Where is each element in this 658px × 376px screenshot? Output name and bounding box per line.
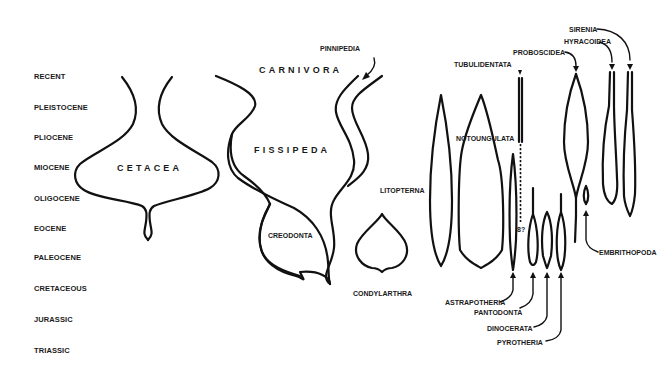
label-cetacea: CETACEA	[117, 163, 182, 173]
period-oligocene: OLIGOCENE	[34, 194, 80, 203]
period-pliocene: PLIOCENE	[34, 133, 73, 142]
period-recent: RECENT	[34, 72, 66, 81]
label-pantodonta: PANTODONTA	[474, 309, 522, 316]
label-sirenia: SIRENIA	[569, 26, 597, 33]
cetacea-spindle: CETACEA	[75, 77, 219, 240]
pantodonta-spindle: PANTODONTA	[474, 188, 538, 316]
period-paleocene: PALEOCENE	[34, 253, 81, 262]
phylogeny-figure: RECENT PLEISTOCENE PLIOCENE MIOCENE OLIG…	[0, 0, 658, 376]
litopterna-spindle	[430, 95, 452, 266]
period-miocene: MIOCENE	[34, 163, 70, 172]
embrithopoda-spindle: EMBRITHOPODA	[583, 186, 657, 256]
proboscidea-spindle: PROBOSCIDEA	[513, 49, 588, 242]
period-pleistocene: PLEISTOCENE	[34, 103, 88, 112]
label-condylarthra: CONDYLARTHRA	[353, 290, 412, 297]
time-scale: RECENT PLEISTOCENE PLIOCENE MIOCENE OLIG…	[34, 72, 88, 355]
notoungulata-spindle: NOTOUNGULATA	[456, 95, 514, 268]
label-litopterna: LITOPTERNA	[380, 187, 425, 194]
label-dinocerata: DINOCERATA	[487, 325, 533, 332]
label-notoungulata: NOTOUNGULATA	[456, 135, 514, 142]
period-triassic: TRIASSIC	[34, 346, 70, 355]
tubulidentata-line: TUBULIDENTATA 8?	[454, 61, 525, 233]
label-embrithopoda: EMBRITHOPODA	[599, 249, 657, 256]
label-carnivora: CARNIVORA	[259, 65, 342, 75]
label-tubulidentata: TUBULIDENTATA	[454, 61, 512, 68]
condylarthra-spindle: CONDYLARTHRA LITOPTERNA	[353, 187, 425, 297]
label-proboscidea: PROBOSCIDEA	[513, 49, 565, 56]
label-creodonta: CREODONTA	[268, 232, 313, 239]
label-astrapotheria: ASTRAPOTHERIA	[445, 299, 505, 306]
label-pyrotheria: PYROTHERIA	[497, 339, 543, 346]
uncertain-marker: 8?	[517, 226, 525, 233]
period-cretaceous: CRETACEOUS	[34, 284, 87, 293]
label-pinnipedia: PINNIPEDIA	[320, 45, 360, 52]
period-eocene: EOCENE	[34, 224, 66, 233]
label-fissipeda: FISSIPEDA	[254, 145, 330, 155]
astrapotheria-spindle: ASTRAPOTHERIA	[445, 154, 516, 306]
period-jurassic: JURASSIC	[34, 315, 73, 324]
